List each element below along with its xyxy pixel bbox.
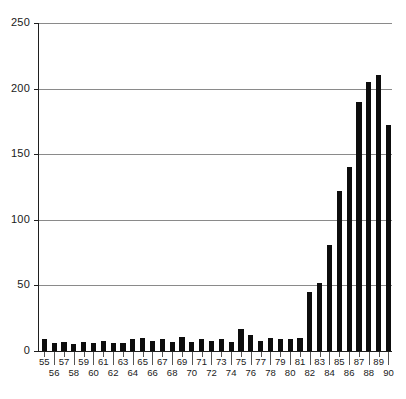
y-axis-tick-label: 50 [0,279,30,290]
bar [376,75,381,351]
bar [52,343,57,351]
bar [327,245,332,351]
x-axis-tick-label: 76 [243,368,259,378]
x-axis-tick-label: 72 [203,368,219,378]
x-axis-tick [349,352,350,365]
bar [366,82,371,351]
bar [150,341,155,351]
bar [248,335,253,351]
bar [160,339,165,351]
bar [170,342,175,351]
bar [81,342,86,351]
x-axis-tick-label: 86 [341,368,357,378]
x-axis-tick-label: 79 [272,357,288,367]
bar [356,102,361,351]
y-axis-tick-label: 150 [0,148,30,159]
bar [238,329,243,351]
x-axis-tick-label: 75 [233,357,249,367]
x-axis-tick-label: 57 [56,357,72,367]
bar-chart: 050100150200250 555657585960616263646566… [0,0,406,399]
x-axis-tick-label: 55 [36,357,52,367]
y-axis-tick-label: 0 [0,345,30,356]
x-axis-tick-label: 58 [66,368,82,378]
x-axis-tick-label: 69 [174,357,190,367]
bar [101,341,106,351]
bar [209,341,214,351]
y-axis-tick-label: 100 [0,214,30,225]
x-axis-tick [388,352,389,365]
y-axis-line [38,23,39,351]
x-axis-tick-label: 78 [262,368,278,378]
bar [317,283,322,351]
x-axis-tick-label: 90 [380,368,396,378]
x-axis-tick [290,352,291,365]
bar [297,338,302,351]
bar [347,167,352,351]
bar [199,339,204,351]
bar [140,338,145,351]
bar [42,339,47,351]
x-axis-tick [172,352,173,365]
x-axis-tick [93,352,94,365]
bar [189,342,194,351]
x-axis-tick [270,352,271,365]
x-axis-tick-label: 89 [371,357,387,367]
x-axis-tick [54,352,55,365]
x-axis-tick-label: 85 [331,357,347,367]
bar [120,343,125,351]
x-axis-tick-label: 88 [361,368,377,378]
x-axis-tick-label: 64 [125,368,141,378]
x-axis-tick-label: 62 [105,368,121,378]
x-axis-tick-label: 80 [282,368,298,378]
x-axis-tick-label: 68 [164,368,180,378]
x-axis-tick-label: 81 [292,357,308,367]
x-axis-tick [211,352,212,365]
bar [288,339,293,351]
x-axis-tick-label: 70 [184,368,200,378]
x-axis-tick-label: 71 [194,357,210,367]
x-axis-tick-label: 74 [223,368,239,378]
bar [386,125,391,351]
bar [258,341,263,351]
x-axis-tick-label: 66 [144,368,160,378]
y-axis-tick-label: 250 [0,17,30,28]
x-axis-tick-label: 59 [76,357,92,367]
x-axis-tick-label: 67 [154,357,170,367]
bar [91,343,96,351]
x-axis-tick [113,352,114,365]
y-axis-tick-label: 200 [0,83,30,94]
x-axis-tick-label: 84 [321,368,337,378]
x-axis-tick [329,352,330,365]
bar [307,292,312,351]
bar [278,339,283,351]
x-axis-tick-label: 65 [135,357,151,367]
bar [337,191,342,351]
x-axis-tick-label: 61 [95,357,111,367]
bar [219,339,224,351]
bar [268,338,273,351]
plot-area [38,23,392,351]
x-axis-tick [231,352,232,365]
x-axis-tick-label: 73 [213,357,229,367]
bar [61,342,66,351]
x-axis-tick-label: 60 [85,368,101,378]
x-axis-tick-label: 87 [351,357,367,367]
bar [130,339,135,351]
x-axis-tick-label: 63 [115,357,131,367]
bar [111,343,116,351]
x-axis-tick-label: 77 [253,357,269,367]
bar [179,337,184,351]
x-axis-tick-label: 56 [46,368,62,378]
x-axis-tick-label: 83 [312,357,328,367]
x-axis-tick [152,352,153,365]
x-axis-tick-label: 82 [302,368,318,378]
bar-series [38,23,392,351]
bar [229,342,234,351]
